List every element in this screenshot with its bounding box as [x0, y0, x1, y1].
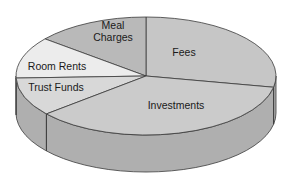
slice-fees: [146, 17, 276, 87]
pie-chart-3d: FeesMealChargesRoom RentsTrust FundsInve…: [0, 0, 293, 183]
label-investments: Investments: [148, 99, 205, 111]
label-fees: Fees: [172, 46, 195, 58]
pie-top-face: [16, 17, 276, 135]
label-room-rents: Room Rents: [28, 60, 86, 72]
label-trust-funds: Trust Funds: [28, 81, 84, 93]
